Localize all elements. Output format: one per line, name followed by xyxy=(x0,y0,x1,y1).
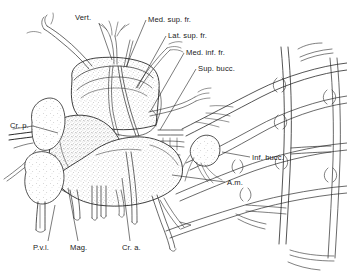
label-lat-sup-fr: Lat. sup. fr. xyxy=(168,31,207,40)
label-vert: Vert. xyxy=(75,13,91,22)
pvl-lobe xyxy=(25,152,64,233)
label-a-m: A.m. xyxy=(227,178,243,187)
leader-inf-bucc xyxy=(222,152,250,157)
illustration-canvas: Vert. Med. sup. fr. Lat. sup. fr. Med. i… xyxy=(0,0,347,273)
inf-bucc-lobe xyxy=(179,135,222,183)
label-pvl: P.v.l. xyxy=(33,243,49,252)
label-cr-p: Cr. p. xyxy=(10,121,29,130)
label-med-sup-fr: Med. sup. fr. xyxy=(148,15,191,24)
label-sup-bucc: Sup. bucc. xyxy=(198,64,235,73)
label-mag: Mag. xyxy=(70,243,87,252)
label-med-inf-fr: Med. inf. fr. xyxy=(186,48,225,57)
anatomical-figure: Vert. Med. sup. fr. Lat. sup. fr. Med. i… xyxy=(0,0,347,273)
label-inf-bucc: Inf. bucc. xyxy=(252,153,284,162)
leader-pvl xyxy=(48,205,55,241)
label-cr-a: Cr. a. xyxy=(122,243,141,252)
